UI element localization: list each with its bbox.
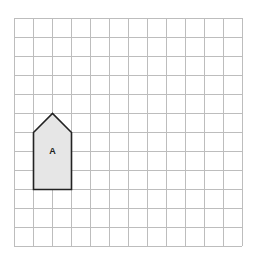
grid-diagram: A <box>0 0 256 257</box>
shape-label: A <box>49 146 56 156</box>
